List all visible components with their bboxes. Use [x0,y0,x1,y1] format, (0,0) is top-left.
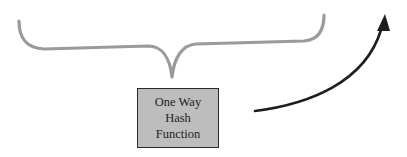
curly-brace [19,15,324,77]
box-label-line-1: One Way [155,94,201,110]
diagram-canvas: One Way Hash Function [0,0,407,157]
arrowhead-icon [377,14,390,31]
box-label-line-3: Function [156,126,200,142]
box-label-line-2: Hash [165,110,191,126]
one-way-hash-function-box: One Way Hash Function [137,88,219,148]
